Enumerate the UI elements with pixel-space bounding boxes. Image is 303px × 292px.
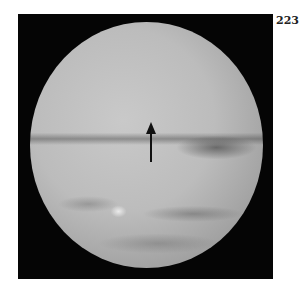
photo-frame — [18, 14, 273, 279]
page-number: 223 — [276, 14, 299, 27]
planet-disk — [30, 22, 263, 268]
arrow-shaft-icon — [150, 132, 152, 162]
